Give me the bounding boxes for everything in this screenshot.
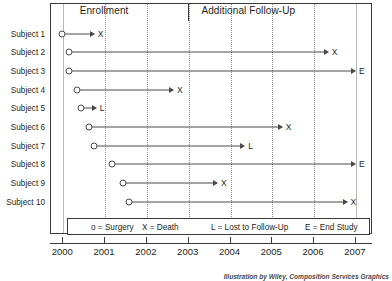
x-tick-label-2006: 2006: [303, 246, 324, 257]
endpoint-label-subject-4: X: [177, 85, 183, 95]
phase-divider: [188, 3, 189, 21]
chart-root: EnrollmentAdditional Follow-Up Subject 1…: [0, 0, 392, 281]
arrow-head-icon-subject-5: [92, 105, 97, 111]
surgery-marker-icon-subject-6: [86, 124, 93, 131]
x-tick-2000: [62, 237, 63, 243]
surgery-marker-icon-subject-5: [78, 105, 85, 112]
legend-item-o: o = Surgery: [91, 222, 134, 231]
endpoint-label-subject-10: X: [351, 197, 357, 207]
legend-item-e: E = End Study: [305, 222, 358, 231]
subject-label-1: Subject 1: [0, 29, 49, 38]
arrow-head-icon-subject-6: [278, 124, 283, 130]
legend-item-l: L = Lost to Follow-Up: [211, 222, 288, 231]
timeline-bar-subject-4: [77, 89, 173, 90]
subject-label-3: Subject 3: [0, 66, 49, 75]
subject-label-7: Subject 7: [0, 141, 49, 150]
gridline-2006: [314, 4, 316, 233]
subject-label-4: Subject 4: [0, 85, 49, 94]
gridline-2005: [272, 4, 274, 233]
x-tick-2002: [146, 237, 147, 243]
arrow-head-icon-subject-3: [351, 68, 356, 74]
arrow-head-icon-subject-10: [343, 199, 348, 205]
x-tick-label-2005: 2005: [261, 246, 282, 257]
gridline-2000: [63, 4, 65, 233]
endpoint-label-subject-1: X: [98, 29, 104, 39]
timeline-bar-subject-6: [89, 127, 281, 128]
surgery-marker-icon-subject-3: [65, 67, 72, 74]
endpoint-label-subject-2: X: [332, 47, 338, 57]
arrow-head-icon-subject-4: [169, 87, 174, 93]
arrow-head-icon-subject-8: [351, 161, 356, 167]
phase-label-enrollment: Enrollment: [80, 5, 129, 16]
subject-label-2: Subject 2: [0, 48, 49, 57]
arrow-head-icon-subject-1: [90, 31, 95, 37]
endpoint-label-subject-8: E: [359, 159, 365, 169]
timeline-bar-subject-9: [123, 183, 217, 184]
endpoint-label-subject-6: X: [286, 122, 292, 132]
gridline-2004: [231, 4, 233, 233]
x-tick-2001: [104, 237, 105, 243]
surgery-marker-icon-subject-10: [126, 198, 133, 205]
x-tick-label-2007: 2007: [344, 246, 365, 257]
subject-label-5: Subject 5: [0, 104, 49, 113]
subject-label-9: Subject 9: [0, 179, 49, 188]
gridline-2002: [147, 4, 149, 233]
x-tick-2005: [271, 237, 272, 243]
x-tick-2004: [230, 237, 231, 243]
subject-label-10: Subject 10: [0, 197, 49, 206]
timeline-bar-subject-7: [94, 145, 244, 146]
x-tick-label-2000: 2000: [52, 246, 73, 257]
subject-label-8: Subject 8: [0, 160, 49, 169]
x-tick-label-2002: 2002: [135, 246, 156, 257]
surgery-marker-icon-subject-4: [73, 86, 80, 93]
endpoint-label-subject-5: L: [100, 103, 105, 113]
surgery-marker-icon-subject-7: [90, 142, 97, 149]
gridline-2003: [189, 4, 191, 233]
timeline-bar-subject-8: [112, 164, 354, 165]
endpoint-label-subject-9: X: [221, 178, 227, 188]
surgery-marker-icon-subject-2: [65, 49, 72, 56]
subject-label-6: Subject 6: [0, 123, 49, 132]
x-axis-line: [50, 243, 372, 244]
timeline-bar-subject-3: [69, 70, 355, 71]
phase-label-additional-follow-up: Additional Follow-Up: [201, 5, 295, 16]
x-tick-2006: [313, 237, 314, 243]
figure-caption: Illustration by Wiley, Composition Servi…: [224, 273, 389, 280]
surgery-marker-icon-subject-9: [119, 180, 126, 187]
x-tick-label-2003: 2003: [177, 246, 198, 257]
x-tick-2007: [355, 237, 356, 243]
x-tick-label-2004: 2004: [219, 246, 240, 257]
arrow-head-icon-subject-7: [240, 143, 245, 149]
arrow-head-icon-subject-9: [213, 180, 218, 186]
x-tick-label-2001: 2001: [94, 246, 115, 257]
surgery-marker-icon-subject-8: [109, 161, 116, 168]
arrow-head-icon-subject-2: [324, 49, 329, 55]
legend-item-x: X = Death: [142, 222, 179, 231]
endpoint-label-subject-3: E: [359, 66, 365, 76]
timeline-bar-subject-10: [129, 201, 346, 202]
timeline-bar-subject-2: [69, 52, 328, 53]
legend: o = SurgeryX = DeathL = Lost to Follow-U…: [67, 218, 370, 235]
endpoint-label-subject-7: L: [248, 141, 253, 151]
surgery-marker-icon-subject-1: [59, 30, 66, 37]
gridline-2001: [105, 4, 107, 233]
x-tick-2003: [188, 237, 189, 243]
